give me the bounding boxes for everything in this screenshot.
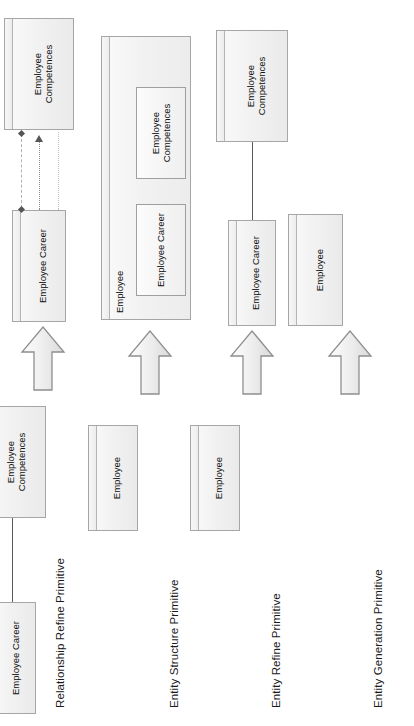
entity-children-area: Employee Career Employee Competences bbox=[130, 37, 190, 319]
connector-dashed bbox=[21, 134, 22, 208]
entity-name: Employee Career bbox=[21, 211, 65, 321]
entity-box[interactable]: Employee Career bbox=[0, 602, 36, 714]
entity-box[interactable]: Employee Competences bbox=[216, 30, 288, 142]
entity-header-strip bbox=[13, 211, 21, 321]
entity-box[interactable]: Employee bbox=[88, 425, 138, 531]
connector-dotted-light bbox=[58, 132, 59, 210]
entity-name: Employee bbox=[110, 37, 130, 319]
entity-box[interactable]: Employee Competences bbox=[0, 406, 46, 518]
entity-header-strip bbox=[229, 221, 237, 325]
transformation-arrow-3 bbox=[125, 328, 175, 396]
entity-name: Employee Competences bbox=[13, 19, 73, 129]
entity-name: Employee Career bbox=[137, 205, 185, 295]
connector-solid bbox=[252, 142, 253, 220]
entity-name: Employee bbox=[199, 426, 239, 530]
transformation-arrow-2 bbox=[227, 328, 277, 396]
entity-box[interactable]: Employee Competences bbox=[4, 18, 74, 130]
entity-box[interactable]: Employee bbox=[190, 425, 240, 531]
row-label-entity-generation: Entity Generation Primitive bbox=[372, 569, 384, 708]
entity-header-strip bbox=[289, 215, 297, 325]
row-label-entity-refine: Entity Refine Primitive bbox=[270, 593, 282, 708]
entity-name: Employee Competences bbox=[0, 407, 45, 517]
entity-box[interactable]: Employee Competences bbox=[136, 87, 186, 179]
entity-header-strip bbox=[102, 37, 110, 319]
entity-header-strip bbox=[5, 19, 13, 129]
entity-box[interactable]: Employee Career bbox=[228, 220, 276, 326]
entity-name: Employee Competences bbox=[225, 31, 287, 141]
transformation-arrow-4 bbox=[18, 324, 68, 392]
row-label-relationship-refine: Relationship Refine Primitive bbox=[54, 558, 66, 708]
row-label-entity-structure: Entity Structure Primitive bbox=[168, 580, 180, 709]
entity-header-strip bbox=[217, 31, 225, 141]
entity-header-strip bbox=[191, 426, 199, 530]
entity-name: Employee Competences bbox=[137, 88, 185, 178]
entity-name: Employee Career bbox=[0, 603, 35, 713]
entity-box[interactable]: Employee Career bbox=[12, 210, 66, 322]
diamond-marker-icon bbox=[17, 130, 24, 137]
entity-container-box[interactable]: Employee Employee Career Employee Compet… bbox=[101, 36, 191, 320]
diagram-canvas: Entity Generation Primitive Employee Ent… bbox=[0, 0, 414, 726]
connector-solid bbox=[12, 518, 13, 602]
entity-box[interactable]: Employee Career bbox=[136, 204, 186, 296]
connector-dotted bbox=[39, 140, 40, 210]
entity-name: Employee bbox=[297, 215, 342, 325]
entity-name: Employee Career bbox=[237, 221, 275, 325]
entity-box[interactable]: Employee bbox=[288, 214, 343, 326]
entity-header-strip bbox=[89, 426, 97, 530]
entity-name: Employee bbox=[97, 426, 137, 530]
arrowhead-icon bbox=[35, 135, 43, 142]
transformation-arrow-1 bbox=[325, 328, 375, 396]
